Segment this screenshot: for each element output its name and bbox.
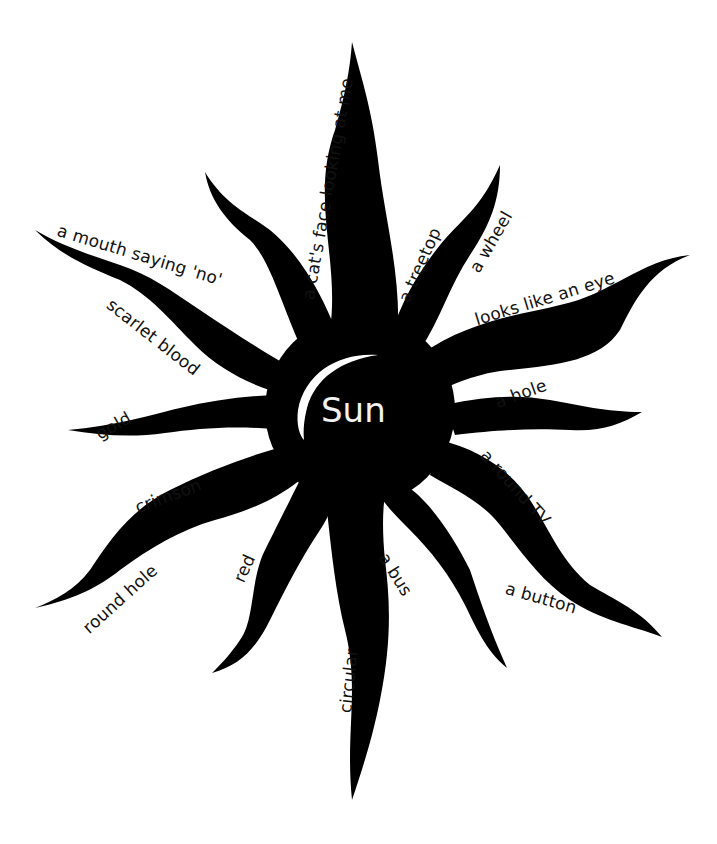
ray-right-long — [420, 255, 690, 395]
ray-bottom — [325, 485, 389, 800]
ray-right-short — [445, 397, 642, 435]
center-label: Sun — [321, 393, 386, 427]
sun-word-diagram: Sun a cat's face looking at me a treetop… — [0, 0, 717, 844]
